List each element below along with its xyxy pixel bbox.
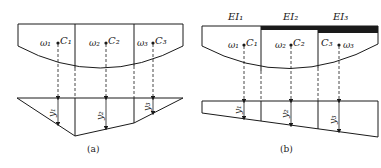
- omega-label: ω₂: [89, 38, 100, 48]
- ordinate-label: y₂: [95, 111, 105, 121]
- projection-lines: [244, 46, 339, 101]
- beam-thick-segment: [261, 26, 378, 30]
- stiffness-label: EI₁: [227, 11, 243, 22]
- panel-a: ω₁ C₁ ω₂ C₂ ω₃ C₃ y₁ y₂ y₃ (a): [17, 24, 183, 154]
- omega-label: ω₃: [137, 38, 148, 48]
- centroid-label: C₂: [108, 35, 120, 46]
- graph-multiplication-diagram: ω₁ C₁ ω₂ C₂ ω₃ C₃ y₁ y₂ y₃ (a) EI₁ EI₂ E…: [0, 0, 381, 168]
- centroid-label: C₁: [60, 35, 72, 46]
- centroid-label: C₃: [321, 37, 333, 48]
- ordinate-label: y₂: [280, 109, 290, 119]
- omega-label: ω₃: [343, 40, 354, 50]
- ordinate-label: y₃: [142, 102, 152, 112]
- panel-b: EI₁ EI₂ EI₃ ω₁ C₁ ω₂ C₂ C₃ ω₃: [202, 11, 378, 154]
- stiffness-label: EI₃: [332, 11, 348, 22]
- projection-lines: [58, 44, 153, 98]
- ordinate-label: y₁: [47, 108, 57, 118]
- omega-label: ω₁: [228, 40, 239, 50]
- omega-label: ω₂: [275, 40, 286, 50]
- centroid-label: C₁: [246, 37, 258, 48]
- beam-thicker-segment: [318, 30, 378, 33]
- stiffness-label: EI₂: [282, 11, 298, 22]
- unit-moment-diagram-b: [202, 101, 378, 137]
- ordinate-label: y₃: [328, 115, 338, 125]
- omega-label: ω₁: [40, 38, 51, 48]
- centroid-label: C₃: [155, 35, 167, 46]
- caption-b: (b): [280, 144, 293, 154]
- caption-a: (a): [87, 144, 99, 154]
- centroid-label: C₂: [293, 37, 305, 48]
- ordinate-label: y₁: [233, 105, 243, 115]
